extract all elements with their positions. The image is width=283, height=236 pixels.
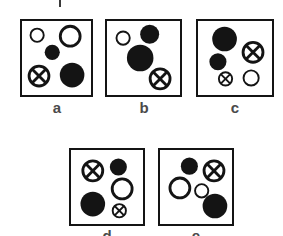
crossed-circle-glyph	[29, 66, 49, 86]
panel-label-d: d	[97, 228, 117, 236]
crossed-circle-glyph	[219, 72, 232, 85]
crossed-circle-glyph	[204, 161, 224, 181]
open-circle-glyph	[116, 31, 129, 44]
panel-c-canvas	[198, 21, 272, 95]
filled-circle-glyph	[209, 53, 226, 70]
panel-e-canvas	[160, 150, 232, 224]
panel-c	[196, 19, 274, 97]
crossed-circle-glyph	[83, 161, 103, 181]
filled-circle-glyph	[181, 158, 198, 175]
panel-label-b: b	[134, 100, 154, 116]
panel-e	[158, 148, 234, 226]
panel-a	[20, 19, 93, 97]
filled-circle-glyph	[80, 192, 105, 217]
panel-a-canvas	[22, 21, 91, 95]
filled-circle-glyph	[60, 63, 85, 88]
open-circle-glyph	[244, 70, 259, 85]
open-circle-glyph	[60, 26, 80, 46]
panel-b-canvas	[107, 21, 180, 95]
panel-d-canvas	[71, 150, 143, 224]
panel-b	[105, 19, 182, 97]
filled-circle-glyph	[140, 25, 159, 44]
filled-circle-glyph	[110, 159, 127, 176]
open-circle-glyph	[31, 29, 44, 42]
panel-label-a: a	[47, 100, 67, 116]
filled-circle-glyph	[212, 27, 237, 52]
filled-circle-glyph	[127, 45, 154, 72]
open-circle-glyph	[195, 184, 208, 197]
crossed-circle-glyph	[243, 42, 263, 62]
figure-container: a b c d e	[0, 0, 283, 236]
panel-d	[69, 148, 145, 226]
open-circle-glyph	[112, 179, 132, 199]
panel-label-c: c	[225, 100, 245, 116]
filled-circle-glyph	[203, 194, 228, 219]
filled-circle-glyph	[45, 45, 60, 60]
open-circle-glyph	[170, 178, 190, 198]
crossed-circle-glyph	[113, 204, 126, 217]
cropped-text-artifact	[59, 0, 61, 7]
panel-label-e: e	[186, 228, 206, 236]
crossed-circle-glyph	[150, 69, 170, 89]
